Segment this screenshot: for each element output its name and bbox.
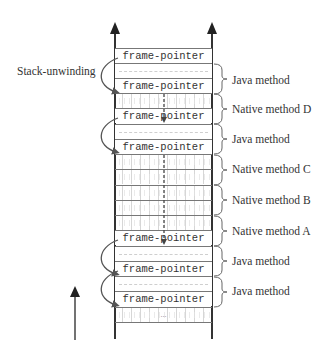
unwind-arrow-icon: [101, 271, 118, 305]
bracket-label: Native method D: [232, 103, 311, 115]
down-arrow-icon: [161, 239, 167, 245]
down-arrow-icon: [161, 117, 167, 123]
bracket-label: Java method: [232, 255, 290, 267]
bracket-label: Java method: [232, 285, 290, 297]
bracket-label: Java method: [232, 74, 290, 86]
bracket-label: Native method C: [232, 163, 311, 175]
bracket-icon: [214, 216, 227, 246]
up-arrow-icon: [110, 22, 120, 34]
bracket-icon: [214, 277, 227, 307]
up-arrow-icon: [70, 286, 80, 297]
unwind-arrow-icon: [101, 240, 118, 274]
bracket-label: Native method B: [232, 194, 311, 206]
bracket-label: Native method A: [232, 225, 311, 237]
diagram-overlay: [0, 0, 333, 353]
bracket-icon: [214, 246, 227, 276]
up-arrow-icon: [207, 22, 217, 34]
bracket-icon: [214, 64, 227, 94]
unwind-arrow-icon: [101, 58, 118, 92]
bracket-icon: [214, 94, 227, 124]
bracket-icon: [214, 155, 227, 185]
bracket-icon: [214, 185, 227, 215]
bracket-label: Java method: [232, 133, 290, 145]
bracket-icon: [214, 124, 227, 154]
stack-unwinding-label: Stack-unwinding: [17, 65, 96, 77]
unwind-arrow-icon: [101, 118, 118, 152]
